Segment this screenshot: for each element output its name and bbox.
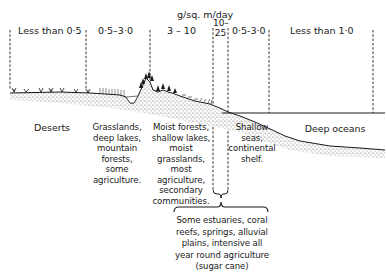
bracket-note: Some estuaries, coral reefs, springs, al… xyxy=(168,215,276,273)
range-label-deserts: Less than 0·5 xyxy=(18,25,82,36)
range-label-grasslands: 0·5–3·0 xyxy=(98,25,133,36)
small-bracket xyxy=(213,190,228,198)
zone-label-moist-forests: Moist forests, shallow lakes, moist gras… xyxy=(148,122,214,206)
zone-label-deserts: Deserts xyxy=(22,123,82,134)
range-label-shallow-seas: 0·5-3·0 xyxy=(232,25,266,36)
range-label-deep-oceans: Less than 1·0 xyxy=(290,25,354,36)
zone-label-shallow-seas: Shallow seas, continental shelf. xyxy=(228,122,276,164)
range-label-estuaries: 10– 25 xyxy=(213,19,228,38)
zone-label-grasslands: Grasslands, deep lakes, mountain forests… xyxy=(84,122,150,185)
range-label-moist-forests: 3 – 10 xyxy=(167,25,196,36)
zone-label-deep-oceans: Deep oceans xyxy=(295,124,375,135)
